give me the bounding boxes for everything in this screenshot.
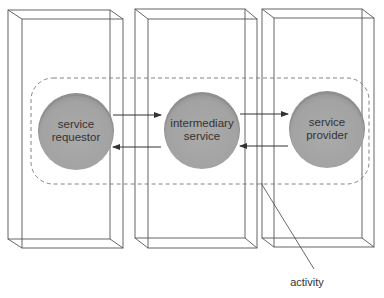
node-label-line1: service [58, 118, 94, 130]
activity-leader-line [261, 183, 314, 269]
node-label-line2: requestor [52, 131, 101, 143]
service-activity-diagram: service requestor intermediary service s… [0, 0, 384, 298]
node-label-line1: intermediary [170, 117, 234, 129]
activity-label: activity [290, 276, 324, 288]
node-label-line2: provider [306, 129, 348, 141]
node-label-line1: service [309, 116, 345, 128]
node-intermediary-service: intermediary service [164, 92, 240, 169]
node-service-provider: service provider [289, 91, 365, 168]
node-service-requestor: service requestor [38, 93, 114, 170]
node-label-line2: service [184, 130, 220, 142]
